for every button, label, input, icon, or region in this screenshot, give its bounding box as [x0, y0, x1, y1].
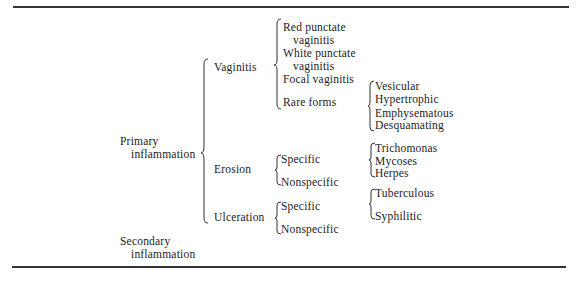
label-herpes: Herpes: [375, 167, 409, 180]
label-focal-vaginitis: Focal vaginitis: [283, 73, 354, 86]
label-trichomonas: Trichomonas: [375, 142, 437, 155]
label-ulceration-specific: Specific: [281, 200, 320, 213]
bottom-rule: [12, 266, 566, 268]
label-red-punctate-vaginitis: Red punctate vaginitis: [283, 21, 346, 47]
label-erosion-specific: Specific: [281, 153, 320, 166]
label-erosion: Erosion: [214, 163, 251, 176]
label-desquamating: Desquamating: [375, 119, 444, 132]
brace-vaginitis: [273, 18, 283, 110]
label-vaginitis: Vaginitis: [214, 61, 257, 74]
label-vesicular: Vesicular: [375, 80, 420, 93]
top-rule: [13, 6, 569, 8]
label-primary-inflammation: Primary inflammation: [120, 135, 195, 161]
label-ulceration: Ulceration: [214, 211, 265, 224]
label-syphilitic: Syphilitic: [375, 210, 422, 223]
brace-rare-forms: [367, 80, 375, 132]
brace-primary: [200, 58, 210, 224]
label-tuberculous: Tuberculous: [375, 187, 434, 200]
label-hypertrophic: Hypertrophic: [375, 93, 439, 106]
label-rare-forms: Rare forms: [283, 96, 336, 109]
label-erosion-nonspecific: Nonspecific: [281, 176, 339, 189]
label-secondary-inflammation: Secondary inflammation: [120, 235, 195, 261]
label-white-punctate-vaginitis: White punctate vaginitis: [283, 47, 356, 73]
label-ulceration-nonspecific: Nonspecific: [281, 223, 339, 236]
